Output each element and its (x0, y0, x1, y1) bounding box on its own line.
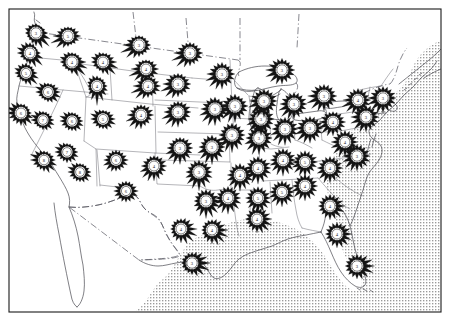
map-canvas: 3454434564433676543333387864333333333344… (0, 0, 450, 321)
wind-rose-map-figure: 3454434564433676543333387864333333333344… (0, 0, 450, 321)
